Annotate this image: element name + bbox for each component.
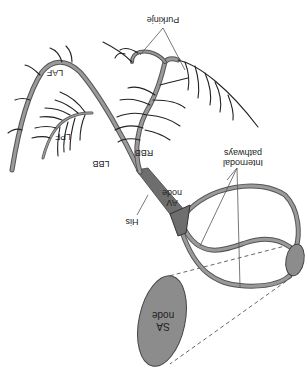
label-purkinje: Purkinje — [147, 15, 180, 25]
left-bundle-branch — [12, 62, 140, 172]
label-internodal-line1: Internodal — [223, 158, 263, 168]
label-lpf: LPF — [55, 132, 71, 142]
label-internodal-line2: pathways — [223, 148, 262, 158]
label-sa-line1: SA — [156, 321, 170, 332]
label-rbb: RBB — [135, 148, 154, 158]
label-laf: LAF — [46, 68, 63, 78]
label-av-line1: AV — [166, 198, 177, 208]
label-sa-line2: node — [151, 310, 174, 321]
label-his: His — [125, 217, 138, 227]
conduction-diagram: Purkinje LAF LPF LBB RBB Internodal path… — [0, 0, 308, 370]
label-av-line2: node — [162, 188, 182, 198]
label-lbb: LBB — [92, 159, 109, 169]
internodal-pathways — [182, 186, 298, 286]
